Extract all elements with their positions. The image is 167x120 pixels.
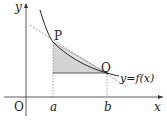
x-axis-label: x xyxy=(154,100,161,114)
origin-label: O xyxy=(14,100,24,114)
curve-label: y=f(x) xyxy=(119,72,154,85)
y-axis-arrow xyxy=(24,3,28,8)
tick-b-label: b xyxy=(104,100,112,114)
y-axis-label: y xyxy=(14,0,22,14)
point-p-label: P xyxy=(54,29,62,43)
tangent-line xyxy=(30,25,127,87)
point-q-label: Q xyxy=(101,61,111,75)
tick-a-label: a xyxy=(50,100,57,114)
x-axis-arrow xyxy=(158,95,163,99)
graph: y x O P Q a b y=f(x) xyxy=(0,0,167,120)
